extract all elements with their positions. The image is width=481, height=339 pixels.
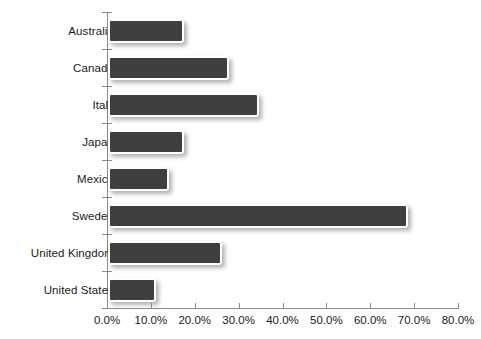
- x-tick-label: 40.0%: [266, 314, 299, 326]
- x-tick: [107, 303, 108, 309]
- x-tick-label: 30.0%: [222, 314, 255, 326]
- x-tick: [239, 303, 240, 309]
- y-tick: [102, 49, 112, 50]
- bar-sweden: [108, 204, 408, 228]
- chart-row: United Kingdom: [0, 234, 481, 271]
- y-tick: [102, 271, 112, 272]
- x-tick: [414, 303, 415, 309]
- x-tick: [370, 303, 371, 309]
- bar-wrapper: [108, 241, 222, 265]
- bar-chart: AustraliaCanadaItalyJapanMexicoSwedenUni…: [0, 0, 481, 339]
- chart-row: Australia: [0, 12, 481, 49]
- x-tick: [458, 303, 459, 309]
- x-tick-label: 0.0%: [94, 314, 120, 326]
- category-label-united-kingdom: United Kingdom: [31, 247, 114, 259]
- chart-row: United States: [0, 271, 481, 308]
- bar-wrapper: [108, 167, 169, 191]
- y-tick: [102, 160, 112, 161]
- category-label-united-states: United States: [44, 284, 114, 296]
- y-tick: [102, 12, 112, 13]
- bar-wrapper: [108, 19, 184, 43]
- y-tick: [102, 123, 112, 124]
- chart-rows: AustraliaCanadaItalyJapanMexicoSwedenUni…: [0, 12, 481, 308]
- y-tick: [102, 197, 112, 198]
- chart-row: Italy: [0, 86, 481, 123]
- x-tick: [326, 303, 327, 309]
- bar-australia: [108, 19, 184, 43]
- x-tick-label: 20.0%: [178, 314, 211, 326]
- chart-row: Mexico: [0, 160, 481, 197]
- bar-wrapper: [108, 278, 156, 302]
- bar-united-states: [108, 278, 156, 302]
- bar-wrapper: [108, 56, 229, 80]
- bar-italy: [108, 93, 259, 117]
- x-tick: [283, 303, 284, 309]
- chart-row: Japan: [0, 123, 481, 160]
- bar-mexico: [108, 167, 169, 191]
- y-tick: [102, 86, 112, 87]
- x-tick-label: 80.0%: [442, 314, 475, 326]
- bar-wrapper: [108, 93, 259, 117]
- bar-japan: [108, 130, 184, 154]
- x-tick: [195, 303, 196, 309]
- x-tick-label: 70.0%: [398, 314, 431, 326]
- x-tick-label: 50.0%: [310, 314, 343, 326]
- chart-row: Canada: [0, 49, 481, 86]
- bar-united-kingdom: [108, 241, 222, 265]
- x-tick-label: 60.0%: [354, 314, 387, 326]
- bar-canada: [108, 56, 229, 80]
- y-tick: [102, 234, 112, 235]
- bar-wrapper: [108, 130, 184, 154]
- x-tick-label: 10.0%: [135, 314, 168, 326]
- chart-row: Sweden: [0, 197, 481, 234]
- bar-wrapper: [108, 204, 408, 228]
- x-tick: [151, 303, 152, 309]
